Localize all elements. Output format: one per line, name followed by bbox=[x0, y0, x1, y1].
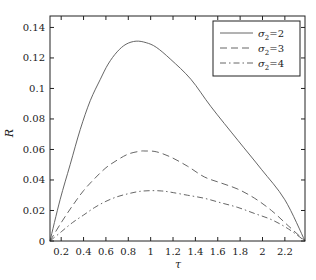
x-tick-label: 1.8 bbox=[232, 246, 248, 257]
y-tick-label: 0.1 bbox=[29, 83, 45, 94]
y-tick-label: 0.04 bbox=[23, 174, 45, 185]
y-tick-label: 0.14 bbox=[23, 22, 45, 33]
y-tick-label: 0 bbox=[39, 236, 45, 247]
y-tick-label: 0.12 bbox=[23, 52, 45, 63]
legend: σ2=2σ2=3σ2=4 bbox=[213, 21, 300, 76]
y-axis-label: R bbox=[3, 129, 16, 138]
x-tick-label: 0.8 bbox=[120, 246, 136, 257]
y-tick-label: 0.06 bbox=[23, 144, 45, 155]
y-tick-label: 0.02 bbox=[23, 205, 45, 216]
x-tick-label: 1.4 bbox=[187, 246, 203, 257]
x-tick-label: 0.4 bbox=[76, 246, 92, 257]
x-tick-label: 1.2 bbox=[165, 246, 181, 257]
x-tick-label: 2.2 bbox=[277, 246, 293, 257]
series-line-3 bbox=[50, 191, 305, 241]
series-line-2 bbox=[50, 151, 305, 241]
x-tick-label: 2 bbox=[259, 246, 265, 257]
x-tick-label: 0.6 bbox=[98, 246, 114, 257]
x-tick-label: 1.6 bbox=[210, 246, 226, 257]
x-tick-label: 0.2 bbox=[53, 246, 69, 257]
line-chart: 0.20.40.60.811.21.41.61.822.2 00.020.040… bbox=[0, 0, 316, 280]
legend-box bbox=[213, 21, 300, 76]
x-axis-label: τ bbox=[175, 258, 182, 271]
y-tick-label: 0.08 bbox=[23, 113, 45, 124]
x-tick-label: 1 bbox=[147, 246, 153, 257]
